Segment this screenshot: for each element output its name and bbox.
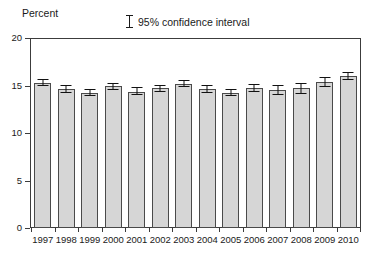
error-bar xyxy=(316,77,333,87)
x-tick-mark xyxy=(55,228,56,232)
error-bar-icon xyxy=(126,15,133,28)
plot-area xyxy=(31,38,360,228)
error-bar xyxy=(222,89,239,96)
bar xyxy=(152,88,169,228)
legend-label-confidence-interval: 95% confidence interval xyxy=(138,16,250,28)
y-tick-label: 10 xyxy=(0,128,22,138)
x-tick-mark xyxy=(149,228,150,232)
x-tick-label: 2005 xyxy=(219,234,243,245)
bar xyxy=(199,89,216,228)
bar-group xyxy=(199,38,216,228)
bar xyxy=(293,88,310,228)
x-tick-mark xyxy=(172,228,173,232)
bar-group xyxy=(34,38,51,228)
bar-group xyxy=(246,38,263,228)
error-bar xyxy=(293,83,310,94)
x-tick-mark xyxy=(31,228,32,232)
bar-group xyxy=(128,38,145,228)
x-tick-mark xyxy=(337,228,338,232)
chart-figure: Percent 95% confidence interval 05101520… xyxy=(0,0,379,254)
y-tick-label: 20 xyxy=(0,33,22,43)
x-tick-mark xyxy=(290,228,291,232)
x-tick-label: 2010 xyxy=(337,234,361,245)
bar-group xyxy=(293,38,310,228)
bar-group xyxy=(316,38,333,228)
error-bar xyxy=(269,85,286,96)
y-tick-mark xyxy=(25,86,30,87)
bar-group xyxy=(152,38,169,228)
bar-group xyxy=(222,38,239,228)
bar xyxy=(316,82,333,228)
y-tick-label: 0 xyxy=(0,223,22,233)
x-tick-mark xyxy=(243,228,244,232)
bar-group xyxy=(175,38,192,228)
bar-group xyxy=(105,38,122,228)
bar xyxy=(128,92,145,228)
y-tick-mark xyxy=(25,133,30,134)
error-bar xyxy=(128,87,145,95)
x-tick-label: 2000 xyxy=(102,234,126,245)
x-tick-mark xyxy=(102,228,103,232)
bar xyxy=(340,76,357,228)
x-tick-label: 2009 xyxy=(313,234,337,245)
y-tick-label: 5 xyxy=(0,176,22,186)
x-tick-label: 2006 xyxy=(243,234,267,245)
y-tick-label: 15 xyxy=(0,81,22,91)
x-tick-label: 2002 xyxy=(149,234,173,245)
y-axis-title: Percent xyxy=(22,7,58,19)
x-tick-label: 2003 xyxy=(172,234,196,245)
x-tick-label: 2008 xyxy=(290,234,314,245)
bar-group xyxy=(340,38,357,228)
x-tick-mark xyxy=(360,228,361,232)
error-bar xyxy=(340,72,357,81)
bar xyxy=(81,93,98,228)
x-tick-mark xyxy=(125,228,126,232)
bar-group xyxy=(58,38,75,228)
bar xyxy=(105,86,122,228)
bar-group xyxy=(81,38,98,228)
bar xyxy=(269,90,286,228)
x-tick-label: 2007 xyxy=(266,234,290,245)
bar xyxy=(175,84,192,228)
error-bar xyxy=(58,85,75,93)
chart-legend: 95% confidence interval xyxy=(126,14,250,29)
error-bar xyxy=(152,85,169,93)
y-tick-mark xyxy=(25,181,30,182)
error-bar xyxy=(175,80,192,87)
x-tick-label: 2001 xyxy=(125,234,149,245)
x-tick-mark xyxy=(78,228,79,232)
x-tick-mark xyxy=(196,228,197,232)
bar xyxy=(222,93,239,228)
error-bar xyxy=(34,79,51,87)
x-tick-label: 1998 xyxy=(55,234,79,245)
y-tick-mark xyxy=(25,38,30,39)
x-tick-label: 1999 xyxy=(78,234,102,245)
bar xyxy=(246,88,263,228)
error-bar xyxy=(199,85,216,93)
bar xyxy=(58,89,75,228)
error-bar xyxy=(81,89,98,96)
bar xyxy=(34,83,51,228)
x-tick-mark xyxy=(219,228,220,232)
bar-group xyxy=(269,38,286,228)
y-tick-mark xyxy=(25,228,30,229)
error-bar xyxy=(246,84,263,92)
x-tick-label: 2004 xyxy=(196,234,220,245)
x-tick-mark xyxy=(313,228,314,232)
error-bar xyxy=(105,83,122,90)
x-tick-label: 1997 xyxy=(31,234,55,245)
x-tick-mark xyxy=(266,228,267,232)
